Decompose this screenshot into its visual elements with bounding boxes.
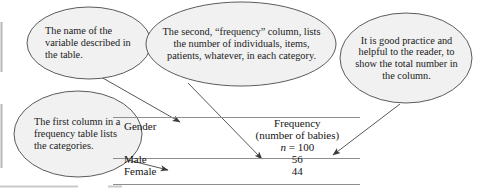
table-row: Male 56 [113,153,360,165]
callout-variable-name-text: The name of the variable described in th… [27,25,151,60]
total-equals: = [286,141,298,153]
table-header-row: Gender Frequency (number of babies) n = … [113,117,360,153]
callout-variable-name: The name of the variable described in th… [27,7,151,79]
table-rule-bottom [113,184,360,185]
header-frequency-line2: (number of babies) [235,129,360,141]
callout-first-column: The first column in a frequency table li… [14,91,142,177]
callout-total-practice: It is good practice and helpful to the r… [340,13,473,103]
header-cell-frequency: Frequency (number of babies) n = 100 [235,117,360,153]
callout-first-column-text: The first column in a frequency table li… [14,116,142,151]
cell-frequency-female: 44 [235,165,360,177]
figure-canvas: The name of the variable described in th… [0,0,482,194]
callout-frequency-column: The second, “frequency” column, lists th… [146,2,337,86]
cell-frequency-male: 56 [235,153,360,165]
frequency-table: Gender Frequency (number of babies) n = … [113,117,360,177]
callout-frequency-column-text: The second, “frequency” column, lists th… [146,26,337,61]
header-frequency-line1: Frequency [235,117,360,129]
callout-total-practice-text: It is good practice and helpful to the r… [340,35,473,82]
header-total-count: n = 100 [235,141,360,153]
table-row: Female 44 [113,165,360,177]
total-value: 100 [298,141,315,153]
